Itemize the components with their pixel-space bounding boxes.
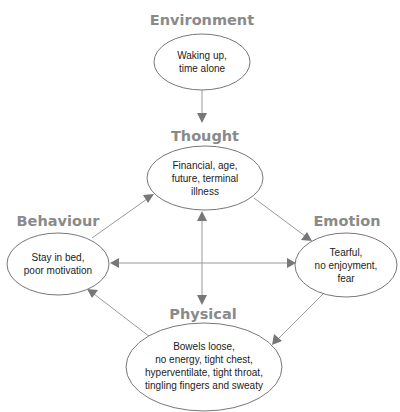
header-environment: Environment: [150, 12, 254, 28]
text-behaviour-line1: Stay in bed,: [32, 252, 85, 263]
node-environment: Environment Waking up, time alone: [150, 12, 254, 90]
text-thought-line1: Financial, age,: [172, 160, 237, 171]
ellipse-environment: [154, 34, 250, 90]
arrowhead-physical-end: [197, 295, 207, 305]
header-physical: Physical: [169, 306, 236, 322]
arrowhead-physical-behaviour: [87, 289, 98, 298]
cbt-cycle-diagram: Environment Waking up, time alone Though…: [0, 0, 400, 412]
text-environment-line1: Waking up,: [177, 50, 227, 61]
header-thought: Thought: [171, 128, 239, 144]
text-thought-line2: future, terminal: [172, 173, 239, 184]
text-environment-line2: time alone: [179, 63, 226, 74]
edge-thought-emotion: [254, 198, 305, 236]
arrowhead-thought-end: [197, 211, 207, 221]
text-physical-line3: hyperventilate, tight throat,: [145, 367, 263, 378]
arrowhead-emotion-physical: [272, 334, 282, 345]
node-thought: Thought Financial, age, future, terminal…: [147, 128, 263, 210]
arrowhead-behaviour-thought: [143, 194, 154, 203]
header-emotion: Emotion: [313, 213, 380, 229]
node-behaviour: Behaviour Stay in bed, poor motivation: [7, 213, 109, 295]
text-physical-line4: tingling fingers and sweaty: [145, 380, 263, 391]
arrowhead-thought-emotion: [301, 232, 312, 241]
node-emotion: Emotion Tearful, no enjoyment, fear: [295, 213, 397, 297]
text-physical-line1: Bowels loose,: [173, 341, 235, 352]
node-physical: Physical Bowels loose, no energy, tight …: [126, 306, 282, 411]
edge-physical-behaviour: [94, 294, 150, 337]
edge-emotion-physical: [278, 293, 324, 339]
ellipse-behaviour: [7, 233, 109, 295]
text-emotion-line2: no enjoyment,: [315, 260, 378, 271]
header-behaviour: Behaviour: [17, 213, 101, 229]
edge-behaviour-thought: [92, 199, 147, 238]
text-emotion-line1: Tearful,: [330, 247, 363, 258]
arrowhead-behaviour-end: [110, 258, 119, 268]
text-behaviour-line2: poor motivation: [24, 265, 92, 276]
arrowhead-environment-thought: [197, 113, 207, 123]
text-emotion-line3: fear: [337, 273, 355, 284]
text-physical-line2: no energy, tight chest,: [155, 354, 253, 365]
text-thought-line3: illness: [191, 186, 219, 197]
